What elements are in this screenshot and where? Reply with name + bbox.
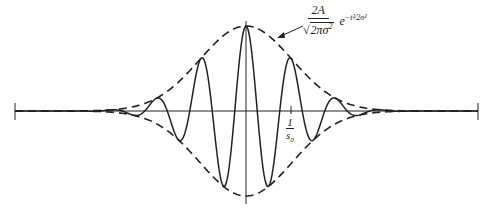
wave-packet-diagram [0,0,490,218]
formula-numerator: 2A [308,4,329,19]
arrow-head-icon [277,32,285,38]
formula-exponential: e−t²⁄2σ² [340,13,367,29]
exp-exponent: −t²⁄2σ² [345,13,367,22]
formula-fraction: 2A √2πσ2 [303,4,334,37]
radical-content: 2πσ [311,23,329,37]
period-label: 1 s0 [286,117,294,146]
period-label-numerator: 1 [286,117,294,129]
radical-power: 2 [329,22,333,31]
envelope-formula: 2A √2πσ2 e−t²⁄2σ² [303,4,367,37]
period-label-sub: 0 [290,136,294,144]
formula-denominator: √2πσ2 [303,19,334,37]
period-label-denominator: s0 [286,129,294,146]
